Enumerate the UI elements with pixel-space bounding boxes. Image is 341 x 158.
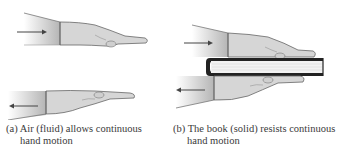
bottom-hand-icon: [8, 91, 135, 121]
panel-b-book: [170, 0, 341, 120]
caption-b-line2: hand motion: [173, 135, 335, 147]
caption-a-line2: hand motion: [6, 135, 142, 147]
bottom-hand-icon: [176, 76, 304, 108]
book-hands-illustration: [170, 0, 341, 120]
caption-a: (a) Air (fluid) allows continuous hand m…: [6, 123, 142, 147]
caption-b: (b) The book (solid) resists continuous …: [173, 123, 335, 147]
caption-a-line1: (a) Air (fluid) allows continuous: [6, 123, 142, 135]
air-hands-illustration: [0, 0, 170, 120]
caption-b-line1: (b) The book (solid) resists continuous: [173, 123, 335, 135]
book-icon: [206, 58, 323, 76]
panel-a-air: [0, 0, 170, 120]
